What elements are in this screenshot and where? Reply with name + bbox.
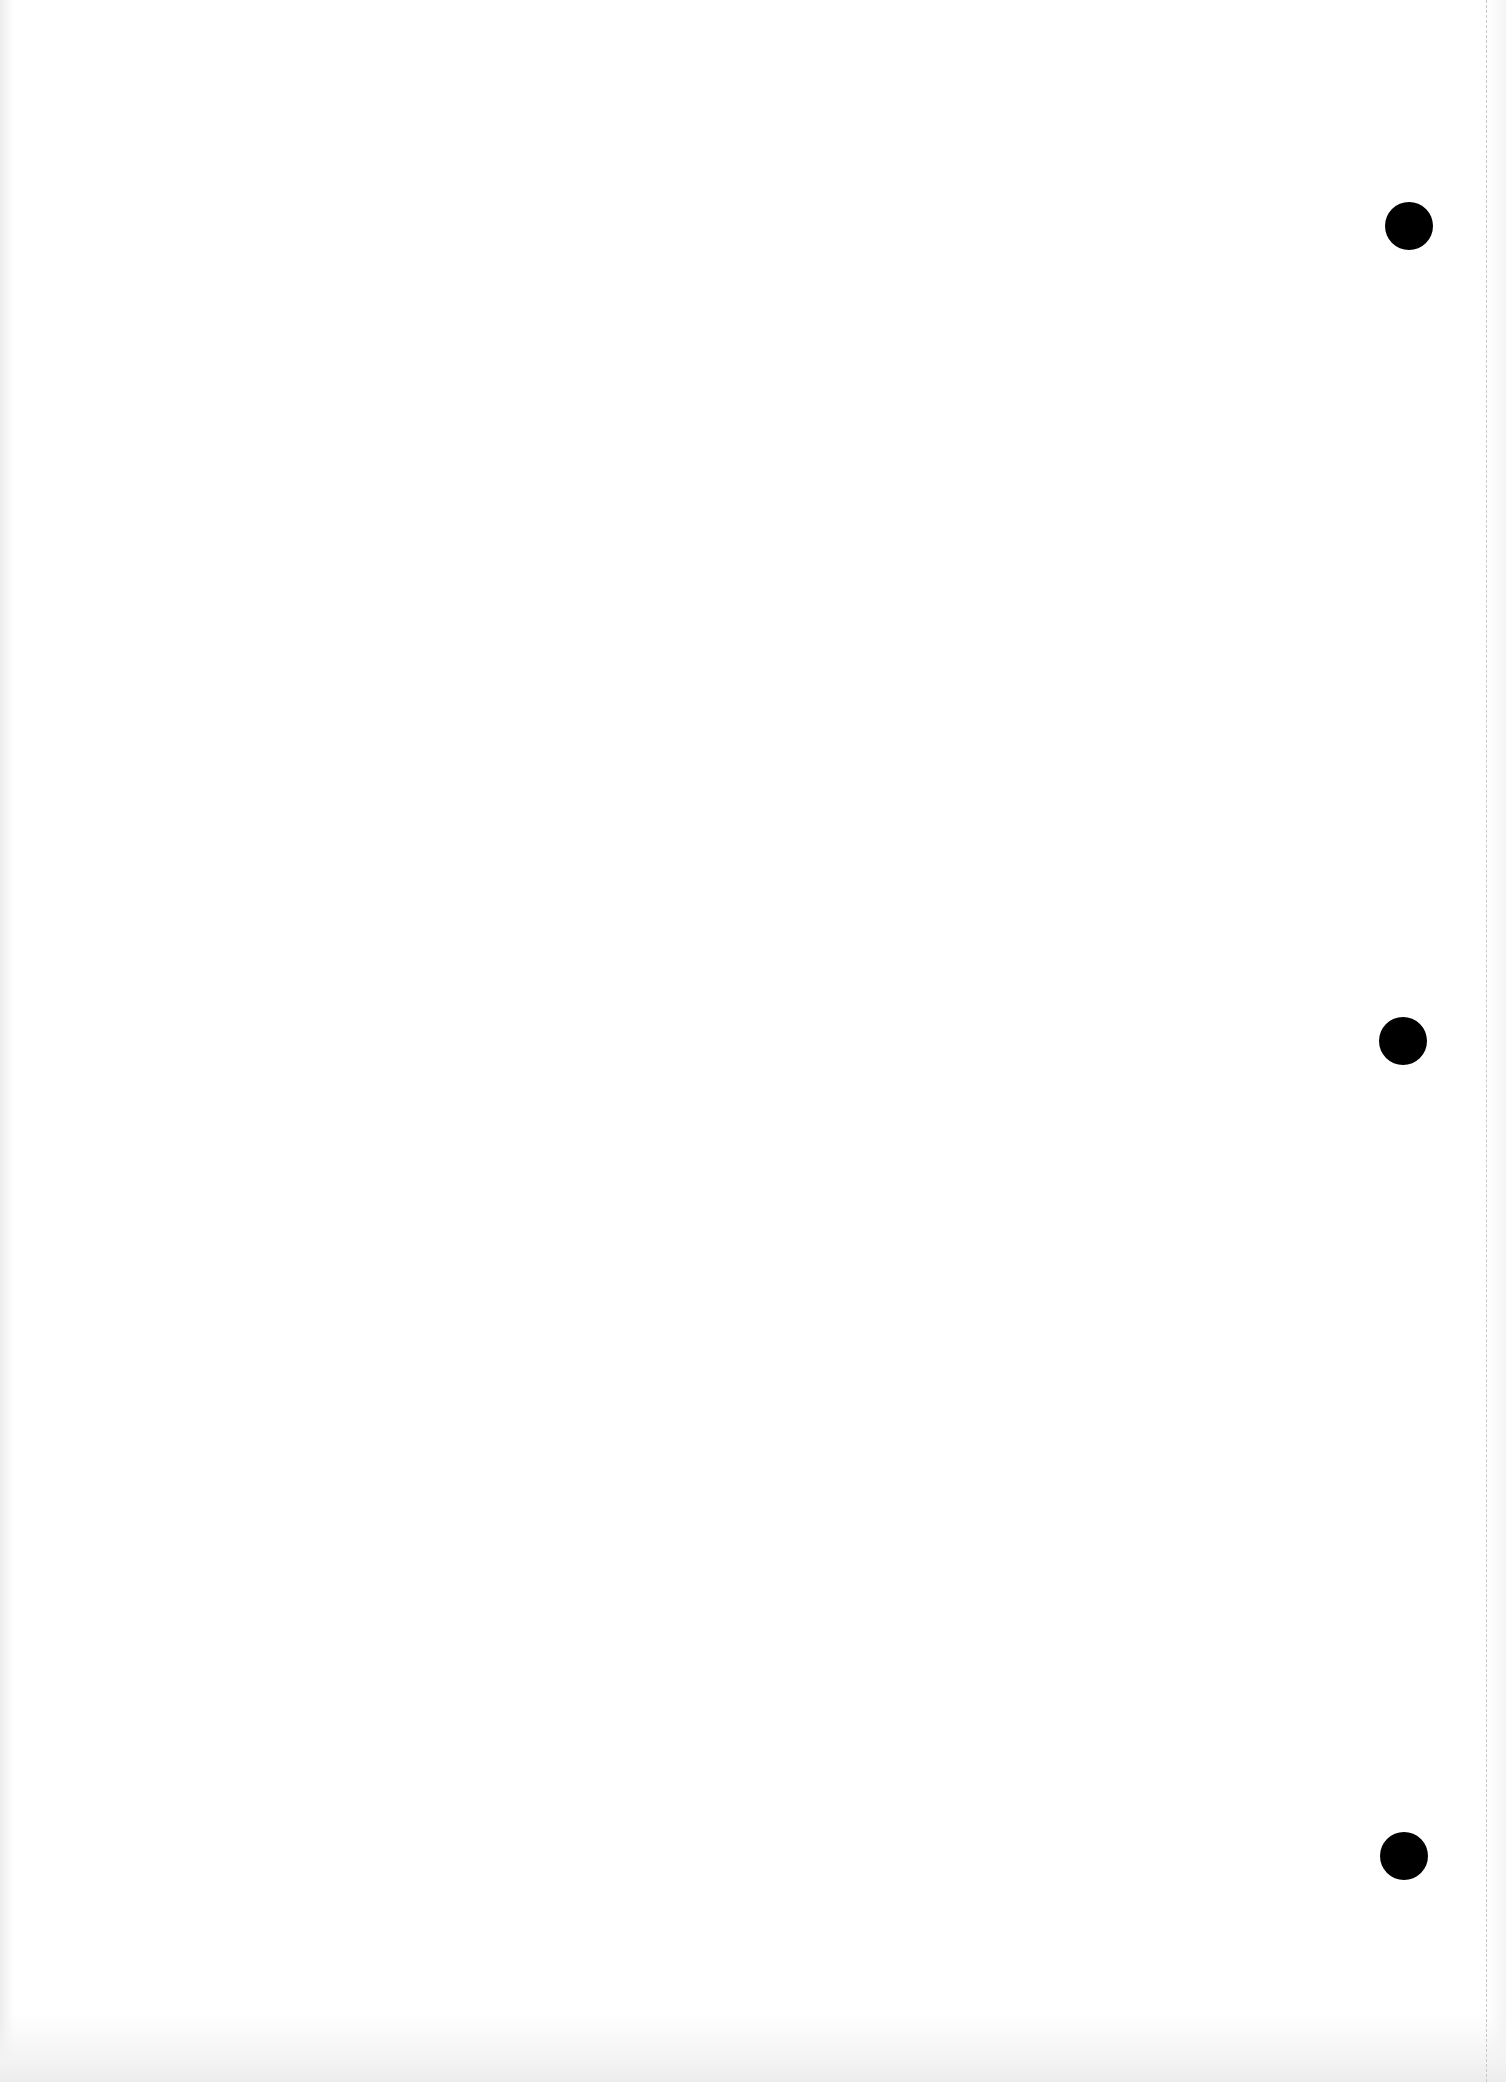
right-margin-shadow bbox=[1488, 0, 1506, 2082]
blank-scanned-page bbox=[0, 0, 1506, 2082]
punch-hole-bottom bbox=[1380, 1832, 1428, 1880]
punch-hole-top bbox=[1385, 202, 1433, 250]
left-edge-shadow bbox=[0, 0, 14, 2082]
bottom-scan-fade bbox=[0, 2012, 1506, 2082]
perforation-line bbox=[1486, 0, 1487, 2082]
punch-hole-middle bbox=[1379, 1017, 1427, 1065]
